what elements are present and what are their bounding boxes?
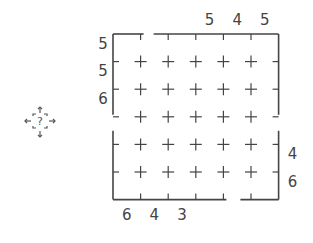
clue-right-5: 4	[285, 146, 301, 162]
svg-text:?: ?	[37, 115, 43, 128]
clue-left-2: 5	[95, 63, 111, 79]
clue-right-6: 6	[285, 174, 301, 190]
clue-left-1: 5	[95, 36, 111, 52]
clue-bottom-1: 6	[119, 207, 135, 223]
clue-bottom-2: 4	[146, 207, 162, 223]
question-move-icon: ?	[22, 104, 58, 140]
clue-top-5: 4	[229, 12, 245, 28]
clue-top-4: 5	[202, 12, 218, 28]
clue-bottom-3: 3	[174, 207, 190, 223]
grid-intersections	[113, 34, 279, 200]
clue-left-3: 6	[95, 91, 111, 107]
clue-top-6: 5	[257, 12, 273, 28]
help-button[interactable]: ?	[22, 104, 58, 140]
